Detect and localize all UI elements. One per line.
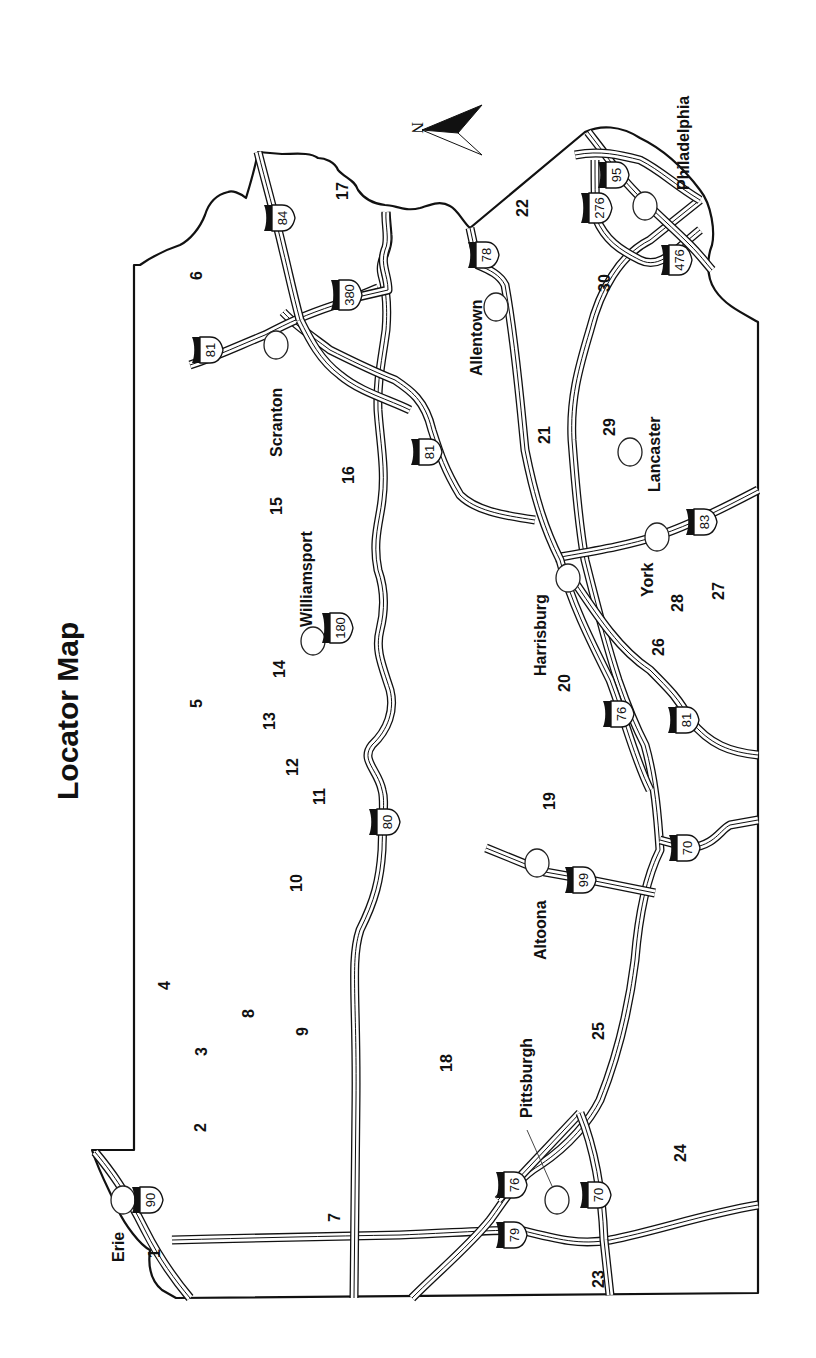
shield-number: 76 (614, 707, 629, 721)
shield-number: 76 (507, 1178, 522, 1192)
region-23: 23 (590, 1270, 607, 1288)
shield-cap-icon (192, 337, 200, 363)
region-24: 24 (672, 1144, 689, 1162)
shield-number: 476 (672, 249, 687, 271)
city-dot-york[interactable] (645, 523, 669, 551)
city-dot-scranton[interactable] (264, 331, 288, 359)
region-1: 1 (146, 1249, 163, 1258)
road-r79-road-mid (172, 1205, 758, 1242)
city-dot-allentown[interactable] (484, 293, 508, 321)
region-6: 6 (188, 271, 205, 280)
interstate-shields: 9079767080997018076818183813808478276954… (132, 162, 717, 1248)
shield-number: 276 (592, 197, 607, 219)
region-4: 4 (156, 981, 173, 990)
region-3: 3 (193, 1047, 210, 1056)
city-dot-harrisburg[interactable] (556, 564, 580, 592)
region-19: 19 (541, 792, 558, 810)
region-18: 18 (438, 1054, 455, 1072)
city-label-harrisburg: Harrisburg (532, 594, 549, 676)
region-9: 9 (294, 1027, 311, 1036)
region-20: 20 (556, 674, 573, 692)
region-30: 30 (596, 274, 613, 292)
city-label-allentown: Allentown (468, 300, 485, 376)
region-16: 16 (340, 466, 357, 484)
interstate-shield-i99: 99 (565, 867, 596, 893)
shield-number: 79 (507, 1228, 522, 1242)
shield-cap-icon (411, 439, 419, 465)
interstate-shield-i81_north: 81 (192, 337, 223, 363)
shield-number: 180 (333, 617, 348, 639)
road-r81c-road-center (283, 312, 535, 520)
city-dot-williamsport[interactable] (301, 627, 325, 655)
city-label-williamsport: Williamsport (298, 530, 315, 627)
shield-number: 81 (203, 343, 218, 357)
region-21: 21 (536, 426, 553, 444)
interstate-shield-i79: 79 (496, 1222, 527, 1248)
interstate-shield-i76_west: 76 (496, 1172, 527, 1198)
region-15: 15 (268, 497, 285, 515)
region-12: 12 (284, 758, 301, 776)
region-29: 29 (601, 418, 618, 436)
interstate-shield-i380: 380 (331, 280, 362, 310)
interstate-shield-i83: 83 (686, 509, 717, 535)
shield-number: 81 (679, 713, 694, 727)
shield-number: 84 (275, 211, 290, 225)
city-label-york: York (639, 563, 656, 597)
region-27: 27 (710, 582, 727, 600)
interstate-shield-i78: 78 (468, 242, 499, 268)
shield-cap-icon (603, 701, 611, 727)
region-7: 7 (326, 1213, 343, 1222)
region-17: 17 (334, 182, 351, 200)
interstate-shield-i476: 476 (661, 245, 692, 275)
region-10: 10 (288, 874, 305, 892)
shield-number: 70 (680, 841, 695, 855)
region-22: 22 (514, 199, 531, 217)
shield-number: 78 (479, 248, 494, 262)
region-14: 14 (271, 660, 288, 678)
city-dot-erie[interactable] (111, 1186, 135, 1214)
city-dot-lancaster[interactable] (618, 438, 642, 466)
state-boundary-outline (92, 127, 758, 1298)
interstate-shield-i95: 95 (598, 162, 629, 188)
shield-number: 380 (342, 284, 357, 306)
region-5: 5 (188, 699, 205, 708)
city-dot-altoona[interactable] (525, 849, 549, 877)
region-28: 28 (669, 594, 686, 612)
locator-map: Locator Map N (0, 0, 816, 1358)
city-label-erie: Erie (110, 1232, 127, 1262)
region-2: 2 (192, 1123, 209, 1132)
interstate-shield-i80: 80 (369, 809, 400, 835)
interstate-shield-i81_south: 81 (668, 707, 699, 733)
city-label-pittsburgh: Pittsburgh (518, 1038, 535, 1118)
shield-cap-icon (668, 707, 676, 733)
interstate-shield-i84: 84 (264, 205, 295, 231)
city-label-scranton: Scranton (268, 388, 285, 457)
region-8: 8 (240, 1009, 257, 1018)
north-arrow-icon: N (409, 105, 482, 155)
region-11: 11 (311, 788, 328, 805)
region-26: 26 (650, 638, 667, 656)
city-label-altoona: Altoona (532, 900, 549, 960)
shield-number: 95 (609, 168, 624, 182)
shield-number: 83 (697, 515, 712, 529)
interstate-shield-i76_east: 76 (603, 701, 634, 727)
shield-number: 99 (576, 873, 591, 887)
city-label-philadelphia: Philadelphia (675, 96, 692, 190)
shield-cap-icon (468, 242, 476, 268)
interstate-shield-i90: 90 (132, 1187, 163, 1213)
shield-cap-icon (496, 1172, 504, 1198)
shield-cap-icon (369, 809, 377, 835)
interstate-shield-i180: 180 (322, 613, 353, 643)
shield-number: 70 (591, 1188, 606, 1202)
shield-number: 80 (380, 815, 395, 829)
shield-number: 81 (422, 445, 437, 459)
city-dot-philadelphia[interactable] (633, 192, 657, 220)
shield-cap-icon (580, 1182, 588, 1208)
region-13: 13 (261, 712, 278, 730)
interstate-shield-i70_east: 70 (669, 835, 700, 861)
map-title: Locator Map (51, 622, 84, 800)
shield-number: 90 (143, 1193, 158, 1207)
city-dot-pittsburgh[interactable] (545, 1186, 569, 1214)
interstate-shield-i70_west: 70 (580, 1182, 611, 1208)
compass-label: N (409, 122, 426, 134)
